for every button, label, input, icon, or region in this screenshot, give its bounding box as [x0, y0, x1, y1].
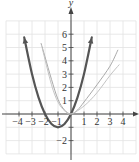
x-tick-label: −4: [12, 116, 23, 127]
y-axis-arrow-icon: [69, 7, 74, 14]
y-tick-label: 2: [62, 82, 67, 93]
y-tick-label: 5: [62, 42, 67, 53]
x-tick-label: 1: [82, 116, 87, 127]
axes: [2, 7, 139, 160]
x-tick-label: 3: [108, 116, 113, 127]
x-tick-label: −3: [25, 116, 36, 127]
y-tick-label: 3: [62, 69, 67, 80]
curve-1: [41, 44, 118, 114]
x-tick-label: 4: [121, 116, 126, 127]
x-tick-label: −1: [51, 116, 62, 127]
x-tick-label: 2: [95, 116, 100, 127]
y-tick-label: −2: [56, 135, 67, 146]
parabola-chart: −4−3−2−11234−2123456y: [0, 0, 139, 162]
y-axis-title: y: [68, 0, 74, 8]
y-tick-label: 4: [62, 55, 67, 66]
y-tick-label: 6: [62, 29, 67, 40]
x-tick-label: −2: [38, 116, 49, 127]
tick-labels: −4−3−2−11234−2123456y: [12, 0, 125, 146]
curve-2: [42, 49, 119, 114]
y-tick-label: 1: [62, 95, 67, 106]
